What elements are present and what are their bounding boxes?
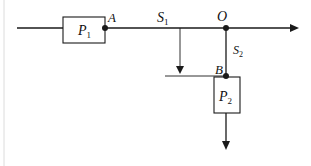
right-arrow-icon [290, 24, 299, 32]
bottom-arrow-icon [222, 141, 230, 150]
main-horizontal-line [17, 24, 299, 32]
label-a: A [107, 10, 116, 25]
down-arrow-icon [176, 66, 184, 74]
label-s2: S2 [233, 43, 243, 59]
point-b [223, 73, 229, 79]
box-p2: P2 [214, 77, 240, 113]
label-s1: S1 [157, 10, 169, 27]
lower-vertical-line [222, 113, 230, 150]
label-b: B [215, 62, 223, 77]
s1-drop-arrow [176, 28, 184, 74]
point-a [102, 25, 108, 31]
label-o: O [217, 9, 227, 24]
box-p1: P1 [63, 17, 105, 43]
diagram-canvas: P1 A S1 O S2 P2 B [0, 0, 311, 166]
